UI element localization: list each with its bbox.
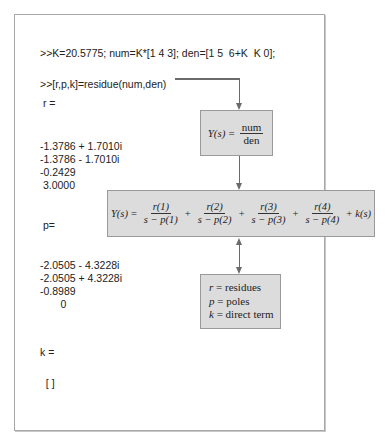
- connector-horizontal: [175, 78, 240, 80]
- partial-fraction-box: Y(s) = r(1) s − p(1) + r(2) s − p(2) + r…: [107, 190, 375, 237]
- pf-term-2-den: s − p(2): [196, 214, 234, 226]
- connector-vertical-2: [239, 156, 241, 184]
- arrow-down-icon: [236, 183, 242, 190]
- legend-item-residues: r = residues: [209, 281, 280, 295]
- pf-term-3-den: s − p(3): [250, 214, 288, 226]
- pf-direct-term: k(s): [355, 208, 371, 219]
- legend-text: direct term: [226, 308, 274, 320]
- legend-symbol: r: [209, 281, 213, 293]
- r-value-3: -0.2429: [40, 166, 76, 179]
- legend-box: r = residues p = poles k = direct term: [200, 274, 281, 329]
- r-label: r =: [40, 97, 55, 110]
- tf-lhs: Y(s): [208, 127, 226, 139]
- plus-sign: +: [239, 208, 245, 219]
- pf-term-1-num: r(1): [151, 201, 171, 214]
- connector-vertical-3: [239, 244, 241, 268]
- p-value-4: 0: [40, 298, 66, 311]
- legend-equals: =: [217, 295, 223, 307]
- arrow-down-icon: [236, 103, 242, 110]
- legend-symbol: p: [209, 295, 215, 307]
- pf-lhs: Y(s): [111, 208, 128, 219]
- pf-term-3-num: r(3): [258, 201, 278, 214]
- legend-text: poles: [226, 295, 249, 307]
- legend-equals: =: [217, 308, 223, 320]
- pf-term-2: r(2) s − p(2): [196, 201, 234, 226]
- plus-sign: +: [292, 208, 298, 219]
- plus-sign: +: [346, 208, 352, 219]
- pf-term-4-den: s − p(4): [303, 214, 341, 226]
- pf-term-2-num: r(2): [204, 201, 224, 214]
- tf-equals: =: [228, 127, 234, 139]
- arrow-down-icon: [236, 267, 242, 274]
- p-label: p=: [40, 219, 55, 232]
- pf-term-4-num: r(4): [312, 201, 332, 214]
- p-value-3: -0.8989: [40, 285, 76, 298]
- r-value-4: 3.0000: [40, 179, 75, 192]
- r-value-1: -1.3786 + 1.7010i: [40, 140, 122, 153]
- k-value: [ ]: [40, 377, 55, 390]
- tf-numerator: num: [240, 121, 264, 134]
- tf-fraction: num den: [240, 121, 264, 146]
- pf-equals: =: [131, 208, 137, 219]
- legend-text: residues: [225, 281, 261, 293]
- connector-vertical-1: [239, 78, 241, 104]
- r-value-2: -1.3786 - 1.7010i: [40, 153, 119, 166]
- transfer-function-box: Y(s) = num den: [200, 110, 273, 156]
- pf-term-1-den: s − p(1): [142, 214, 180, 226]
- pf-term-3: r(3) s − p(3): [250, 201, 288, 226]
- legend-item-direct-term: k = direct term: [209, 308, 280, 322]
- command-line-1: >>K=20.5775; num=K*[1 4 3]; den=[1 5 6+K…: [40, 47, 275, 60]
- legend-symbol: k: [209, 308, 214, 320]
- pf-term-1: r(1) s − p(1): [142, 201, 180, 226]
- plus-sign: +: [185, 208, 191, 219]
- legend-equals: =: [216, 281, 222, 293]
- tf-denominator: den: [242, 134, 262, 146]
- command-line-2: >>[r,p,k]=residue(num,den): [40, 78, 166, 91]
- k-label: k =: [40, 346, 54, 359]
- legend-item-poles: p = poles: [209, 295, 280, 309]
- pf-term-4: r(4) s − p(4): [303, 201, 341, 226]
- p-value-1: -2.0505 - 4.3228i: [40, 259, 119, 272]
- p-value-2: -2.0505 + 4.3228i: [40, 272, 122, 285]
